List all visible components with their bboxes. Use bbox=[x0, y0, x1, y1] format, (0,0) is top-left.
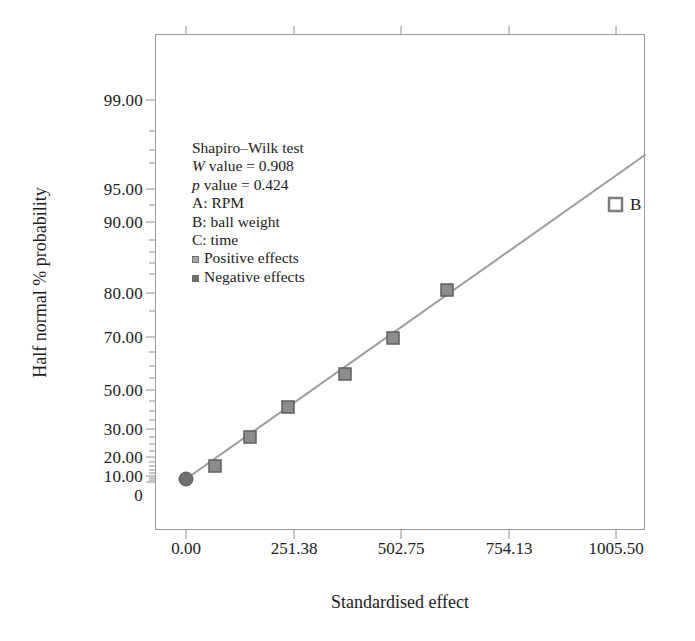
x-tick-label: 251.38 bbox=[271, 540, 318, 557]
data-point bbox=[282, 401, 294, 413]
legend-item-positive: Positive effects bbox=[192, 249, 305, 267]
y-tick-label: 20.00 bbox=[104, 449, 143, 466]
half-normal-probability-plot: 99.00 95.00 90.00 80.00 70.00 50.00 30.0… bbox=[0, 0, 695, 641]
p-value-row: p value = 0.424 bbox=[192, 176, 305, 194]
w-symbol: W bbox=[192, 157, 205, 174]
x-tick-label: 754.13 bbox=[486, 540, 533, 557]
shapiro-wilk-title: Shapiro–Wilk test bbox=[192, 139, 305, 157]
x-axis-title: Standardised effect bbox=[155, 592, 645, 613]
y-tick-label: 10.00 bbox=[104, 468, 143, 485]
data-point bbox=[339, 368, 351, 380]
w-value: value = 0.908 bbox=[205, 157, 294, 174]
x-tick-label: 0.00 bbox=[171, 540, 201, 557]
y-tick-label: 80.00 bbox=[104, 285, 143, 302]
p-symbol: p bbox=[192, 176, 200, 193]
data-point bbox=[441, 284, 453, 296]
data-point bbox=[244, 431, 256, 443]
x-tick-label: 502.75 bbox=[378, 540, 425, 557]
y-tick-label: 90.00 bbox=[104, 214, 143, 231]
y-axis-tick-labels: 99.00 95.00 90.00 80.00 70.00 50.00 30.0… bbox=[0, 0, 143, 641]
y-tick-label: 99.00 bbox=[104, 92, 143, 109]
legend-label-positive: Positive effects bbox=[204, 249, 299, 267]
negative-effect-marker-icon bbox=[192, 275, 199, 282]
legend-item-negative: Negative effects bbox=[192, 268, 305, 286]
data-point bbox=[179, 472, 193, 486]
legend-label-negative: Negative effects bbox=[204, 268, 305, 286]
data-point-b bbox=[609, 198, 622, 211]
positive-effect-marker-icon bbox=[192, 256, 199, 263]
y-tick-label: 50.00 bbox=[104, 382, 143, 399]
y-tick-label: 30.00 bbox=[104, 421, 143, 438]
data-point-label-b: B bbox=[630, 196, 641, 213]
factor-c-label: C: time bbox=[192, 231, 305, 249]
data-point bbox=[387, 332, 399, 344]
p-value: value = 0.424 bbox=[200, 176, 289, 193]
y-axis-ticks bbox=[146, 100, 155, 482]
data-point bbox=[209, 460, 221, 472]
y-tick-label: 70.00 bbox=[104, 329, 143, 346]
annotation-block: Shapiro–Wilk test W value = 0.908 p valu… bbox=[192, 139, 305, 286]
factor-b-label: B: ball weight bbox=[192, 213, 305, 231]
y-axis-title: Half normal % probability bbox=[30, 133, 51, 433]
w-value-row: W value = 0.908 bbox=[192, 157, 305, 175]
x-tick-label: 1005.50 bbox=[588, 540, 643, 557]
y-tick-label: 0 bbox=[134, 487, 143, 504]
y-tick-label: 95.00 bbox=[104, 181, 143, 198]
factor-a-label: A: RPM bbox=[192, 194, 305, 212]
data-points-positive bbox=[609, 198, 622, 211]
